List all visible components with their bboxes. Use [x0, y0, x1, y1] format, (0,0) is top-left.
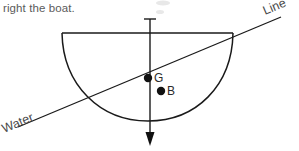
point-b-dot [157, 87, 165, 95]
diagram-canvas: G B Line Water [0, 0, 299, 151]
scan-artifact-speck-secondary [156, 10, 164, 14]
point-g-dot [144, 74, 152, 82]
vertical-force-arrowhead-icon [146, 132, 155, 146]
point-b-label: B [167, 84, 175, 98]
point-g-label: G [154, 71, 163, 85]
boat-stability-figure: right the boat. G B Line Water [0, 0, 299, 151]
waterline-left-label: Water [0, 110, 35, 136]
scan-artifact-speck [156, 1, 170, 6]
waterline-right-label: Line [261, 0, 288, 18]
